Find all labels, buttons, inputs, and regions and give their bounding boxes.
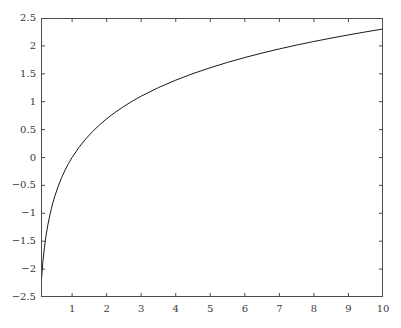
axis-ticks	[41, 18, 383, 297]
x-tick-label: 7	[276, 304, 282, 314]
y-tick-label: 0.5	[20, 125, 36, 135]
x-tick-label: 4	[173, 304, 179, 314]
x-tick-label: 2	[103, 304, 109, 314]
x-tick-label: 6	[242, 304, 248, 314]
data-series-line	[41, 29, 383, 286]
y-tick-label: 2	[30, 41, 36, 51]
plot-svg	[41, 18, 383, 297]
plot-area	[41, 18, 383, 297]
y-tick-label: 2.5	[20, 13, 36, 23]
figure-canvas: −2.5−2−1.5−1−0.500.511.522.5 12345678910	[0, 0, 401, 328]
y-tick-label: −2.5	[12, 292, 36, 302]
y-tick-label: −1.5	[12, 236, 36, 246]
x-tick-label: 8	[311, 304, 317, 314]
axes-frame	[42, 19, 383, 297]
y-tick-label: 1.5	[20, 69, 36, 79]
y-tick-label: 1	[30, 97, 36, 107]
y-tick-label: −1	[21, 208, 36, 218]
x-tick-label: 9	[345, 304, 351, 314]
y-tick-label: −2	[21, 264, 36, 274]
y-tick-label: 0	[30, 153, 36, 163]
x-tick-label: 10	[377, 304, 390, 314]
x-tick-label: 5	[207, 304, 213, 314]
x-tick-label: 3	[138, 304, 144, 314]
y-tick-label: −0.5	[12, 180, 36, 190]
x-tick-label: 1	[69, 304, 75, 314]
